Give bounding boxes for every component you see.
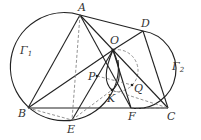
geometry-diagram: A D O B E P K Q F C Γ1 Γ2 [0, 0, 201, 140]
label-Q: Q [134, 82, 143, 95]
solid-lines [28, 15, 168, 120]
label-gamma1: Γ1 [19, 44, 32, 58]
label-P: P [87, 70, 96, 83]
circle-gamma1 [10, 13, 118, 121]
dashed-lines [28, 15, 168, 120]
label-E: E [66, 123, 75, 136]
label-B: B [17, 107, 26, 120]
label-F: F [127, 110, 136, 123]
label-A: A [77, 1, 86, 14]
label-gamma2: Γ2 [171, 60, 185, 74]
label-C: C [167, 110, 176, 123]
label-D: D [140, 17, 150, 30]
label-O: O [110, 34, 119, 47]
label-K: K [106, 92, 116, 105]
